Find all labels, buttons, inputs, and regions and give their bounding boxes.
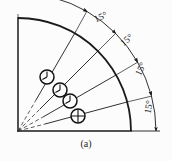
- marker-3: [63, 94, 77, 108]
- ray-15-solid: [45, 102, 127, 124]
- ray-45-extension: [98, 33, 116, 51]
- figure-container: 15° 15° 15° 15° (a): [0, 0, 172, 161]
- ray-60-extension: [76, 11, 87, 31]
- marker-4: [71, 109, 85, 123]
- ray-15-dashed: [18, 124, 45, 131]
- figure-caption: (a): [0, 138, 172, 149]
- marker-2: [53, 83, 67, 97]
- dimension-arc-1: [54, 0, 87, 12]
- angle-division-diagram: [0, 0, 172, 161]
- marker-1: [40, 70, 54, 84]
